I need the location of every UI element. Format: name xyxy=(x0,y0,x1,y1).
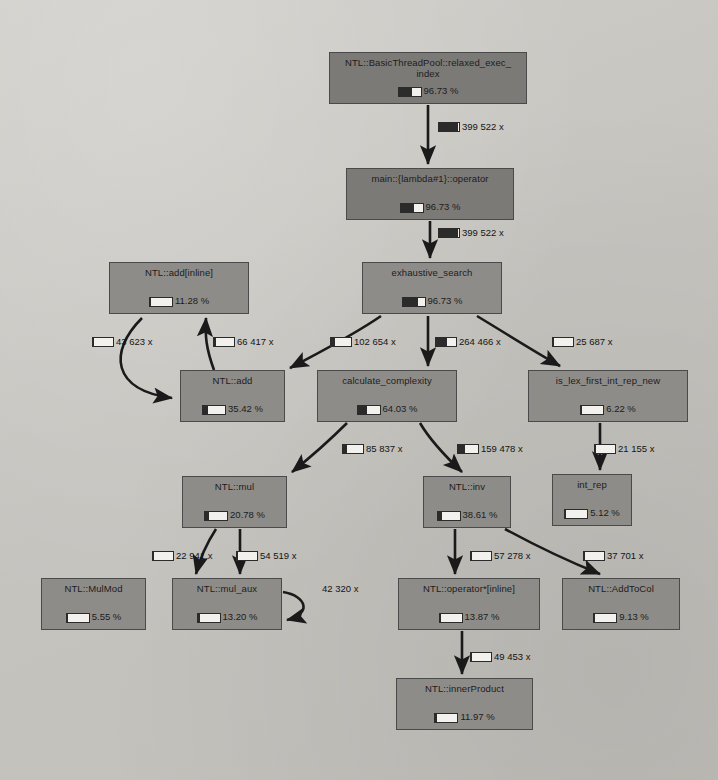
node-label: is_lex_first_int_rep_new xyxy=(533,376,683,387)
percent-gauge-icon xyxy=(402,297,426,307)
graph-node-main_lambda_operator[interactable]: main::{lambda#1}::operator96.73 % xyxy=(346,168,514,220)
edge-count: 159 478 x xyxy=(481,444,523,454)
node-metric: 35.42 % xyxy=(202,404,263,415)
percent-gauge-icon xyxy=(357,405,381,415)
percent-gauge-icon xyxy=(202,405,226,415)
graph-node-calculate_complexity[interactable]: calculate_complexity64.03 % xyxy=(317,370,457,422)
edge-gauge-icon xyxy=(438,122,460,132)
edge-count: 54 519 x xyxy=(260,551,296,561)
edge-label-e15: 42 320 x xyxy=(322,584,358,594)
edge-label-e11: 22 941 x xyxy=(152,551,212,561)
node-metric: 13.20 % xyxy=(197,612,258,623)
edge-label-e14: 37 701 x xyxy=(583,551,643,561)
node-metric: 20.78 % xyxy=(204,510,265,521)
node-metric: 9.13 % xyxy=(593,612,649,623)
graph-node-ntl_mul_aux[interactable]: NTL::mul_aux13.20 % xyxy=(172,578,282,630)
edge-label-e10: 21 155 x xyxy=(594,444,654,454)
edge-gauge-icon xyxy=(470,551,492,561)
node-label: NTL::add[inline] xyxy=(114,268,244,279)
node-percent: 20.78 % xyxy=(230,510,265,521)
node-percent: 96.73 % xyxy=(426,202,461,213)
percent-gauge-icon xyxy=(580,405,604,415)
node-label: NTL::AddToCol xyxy=(567,584,675,595)
edge-label-e4: 66 417 x xyxy=(213,337,273,347)
node-label: int_rep xyxy=(557,480,627,491)
percent-gauge-icon xyxy=(400,203,424,213)
node-label: exhaustive_search xyxy=(367,268,497,279)
edge-count: 102 654 x xyxy=(354,337,396,347)
edge-count: 42 320 x xyxy=(322,583,358,594)
node-label: NTL::operator*[inline] xyxy=(403,584,535,595)
edge-count: 66 417 x xyxy=(237,337,273,347)
edge-gauge-icon xyxy=(438,228,460,238)
edge-label-e1: 399 522 x xyxy=(438,122,504,132)
node-percent: 35.42 % xyxy=(228,404,263,415)
edge-count: 43 623 x xyxy=(116,337,152,347)
edge-label-e12: 54 519 x xyxy=(236,551,296,561)
edge-label-e16: 49 453 x xyxy=(470,652,530,662)
percent-gauge-icon xyxy=(204,511,228,521)
graph-node-ntl_mul[interactable]: NTL::mul20.78 % xyxy=(182,476,287,528)
node-label: NTL::BasicThreadPool::relaxed_exec_ inde… xyxy=(334,58,522,79)
edge-count: 25 687 x xyxy=(576,337,612,347)
edge-gauge-icon xyxy=(152,551,174,561)
graph-node-ntl_addtocol[interactable]: NTL::AddToCol9.13 % xyxy=(562,578,680,630)
node-percent: 5.12 % xyxy=(590,508,620,519)
node-metric: 11.28 % xyxy=(149,296,209,307)
graph-node-ntl_add_inline[interactable]: NTL::add[inline]11.28 % xyxy=(109,262,249,314)
edge-count: 399 522 x xyxy=(462,228,504,238)
edge-label-e8: 85 837 x xyxy=(342,444,402,454)
node-percent: 11.28 % xyxy=(175,296,209,307)
graph-node-ntl_operator_star_inline[interactable]: NTL::operator*[inline]13.87 % xyxy=(398,578,540,630)
percent-gauge-icon xyxy=(398,87,422,97)
node-label: NTL::MulMod xyxy=(46,584,141,595)
node-label: NTL::mul_aux xyxy=(177,584,277,595)
edge-label-e5: 102 654 x xyxy=(330,337,396,347)
graph-node-ntl_innerproduct[interactable]: NTL::innerProduct11.97 % xyxy=(396,678,533,730)
node-percent: 38.61 % xyxy=(463,510,498,521)
node-percent: 13.87 % xyxy=(465,612,500,623)
node-label: NTL::mul xyxy=(187,482,282,493)
graph-node-ntl_add[interactable]: NTL::add35.42 % xyxy=(180,370,285,422)
edge-gauge-icon xyxy=(236,551,258,561)
edge-gauge-icon xyxy=(457,444,479,454)
node-label: main::{lambda#1}::operator xyxy=(351,174,509,185)
node-metric: 96.73 % xyxy=(398,86,459,97)
graph-node-ntl_inv[interactable]: NTL::inv38.61 % xyxy=(423,476,511,528)
edge-count: 264 466 x xyxy=(459,337,501,347)
node-metric: 13.87 % xyxy=(439,612,500,623)
node-metric: 38.61 % xyxy=(437,510,498,521)
node-percent: 6.22 % xyxy=(606,404,636,415)
node-percent: 96.73 % xyxy=(428,296,463,307)
edge-gauge-icon xyxy=(470,652,492,662)
edge-gauge-icon xyxy=(583,551,605,561)
percent-gauge-icon xyxy=(66,613,90,623)
edge-gauge-icon xyxy=(435,337,457,347)
edge-count: 57 278 x xyxy=(494,551,530,561)
node-metric: 11.97 % xyxy=(434,712,494,723)
edge-count: 22 941 x xyxy=(176,551,212,561)
edge-gauge-icon xyxy=(92,337,114,347)
edge-count: 399 522 x xyxy=(462,122,504,132)
edge-count: 21 155 x xyxy=(618,444,654,454)
node-metric: 96.73 % xyxy=(402,296,463,307)
node-label: NTL::add xyxy=(185,376,280,387)
edge-label-e3: 43 623 x xyxy=(92,337,152,347)
graph-node-relaxed_exec_index[interactable]: NTL::BasicThreadPool::relaxed_exec_ inde… xyxy=(329,52,527,104)
percent-gauge-icon xyxy=(437,511,461,521)
edge-label-e6: 264 466 x xyxy=(435,337,501,347)
node-label: NTL::innerProduct xyxy=(401,684,528,695)
graph-node-is_lex_first_int_rep_new[interactable]: is_lex_first_int_rep_new6.22 % xyxy=(528,370,688,422)
node-label: calculate_complexity xyxy=(322,376,452,387)
node-percent: 11.97 % xyxy=(460,712,494,723)
graph-node-exhaustive_search[interactable]: exhaustive_search96.73 % xyxy=(362,262,502,314)
node-metric: 96.73 % xyxy=(400,202,461,213)
node-metric: 64.03 % xyxy=(357,404,418,415)
graph-node-ntl_mulmod[interactable]: NTL::MulMod5.55 % xyxy=(41,578,146,630)
edge-count: 49 453 x xyxy=(494,652,530,662)
edge-label-e13: 57 278 x xyxy=(470,551,530,561)
edge-gauge-icon xyxy=(330,337,352,347)
edge-label-e9: 159 478 x xyxy=(457,444,523,454)
edge-label-e7: 25 687 x xyxy=(552,337,612,347)
graph-node-int_rep[interactable]: int_rep5.12 % xyxy=(552,474,632,526)
